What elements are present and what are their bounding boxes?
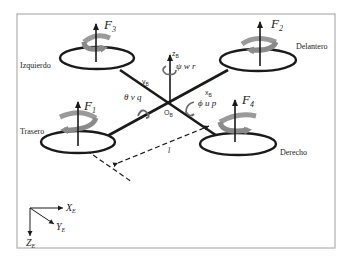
quadcopter-diagram: l F3 Izquierdo F2 Delantero F1 Trasero F…: [0, 0, 353, 265]
svg-text:OB: OB: [164, 109, 173, 118]
rotor-f1: F1 Trasero: [20, 98, 115, 153]
rotation-arrow-icon: [242, 38, 276, 44]
earth-frame: XE YE ZE: [26, 202, 76, 249]
arm-length-dimension: [118, 126, 209, 163]
svg-text:F2: F2: [270, 16, 283, 33]
svg-text:ZE: ZE: [26, 237, 36, 249]
label-delantero: Delantero: [296, 42, 328, 51]
label-derecho: Derecho: [280, 148, 307, 157]
label-trasero: Trasero: [20, 127, 44, 136]
roll-rotation-icon: [186, 102, 194, 116]
rotor-f3: F3 Izquierdo: [20, 17, 134, 70]
svg-text:F4: F4: [241, 92, 254, 109]
rotation-arrow-icon: [220, 115, 256, 122]
pitch-label: θ v q: [124, 92, 142, 102]
svg-text:XE: XE: [65, 202, 76, 214]
rotation-arrow-icon: [84, 36, 110, 42]
propeller-disc: [200, 133, 276, 155]
rotor-f2: F2 Delantero: [220, 16, 328, 71]
yaw-label: ψ w r: [176, 61, 196, 71]
svg-text:F3: F3: [103, 17, 116, 34]
label-izquierdo: Izquierdo: [20, 61, 51, 70]
svg-text:zB: zB: [172, 50, 180, 59]
svg-text:xB: xB: [205, 89, 213, 98]
arm-length-label: l: [168, 146, 171, 155]
ye-axis-arrow-icon: [30, 208, 54, 224]
svg-text:F1: F1: [83, 98, 96, 115]
svg-text:YE: YE: [56, 221, 66, 233]
roll-label: ϕ u p: [198, 98, 217, 108]
